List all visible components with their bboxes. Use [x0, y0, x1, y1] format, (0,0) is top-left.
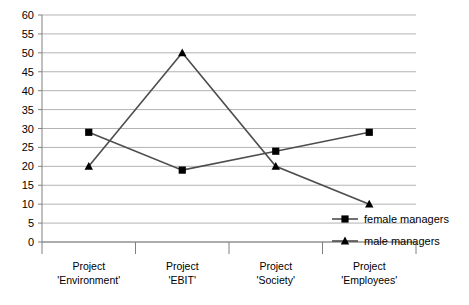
x-axis-category-label: 'Environment' [57, 274, 120, 286]
y-axis-tick-label: 10 [22, 198, 34, 210]
y-axis-tick-label: 60 [22, 9, 34, 21]
data-point-square-marker [366, 129, 373, 136]
legend-item-label: male managers [364, 235, 440, 247]
y-axis-tick-label: 55 [22, 28, 34, 40]
y-axis-tick-label: 45 [22, 66, 34, 78]
x-axis-category-label: Project [166, 260, 199, 272]
x-axis-category-label: 'Employees' [341, 274, 397, 286]
line-chart: 051015202530354045505560 Project'Environ… [0, 0, 469, 305]
x-axis-category-label: 'Society' [257, 274, 295, 286]
chart-canvas: 051015202530354045505560 Project'Environ… [0, 0, 469, 305]
data-point-square-marker [179, 167, 186, 174]
x-axis-category-label: 'EBIT' [169, 274, 196, 286]
y-axis-tick-label: 25 [22, 141, 34, 153]
legend-square-marker [341, 215, 348, 222]
y-axis-tick-label: 50 [22, 47, 34, 59]
y-axis-tick-label: 40 [22, 85, 34, 97]
y-axis-tick-label: 5 [28, 217, 34, 229]
y-axis-tick-label: 15 [22, 179, 34, 191]
y-axis-tick-label: 30 [22, 123, 34, 135]
data-point-square-marker [272, 148, 279, 155]
data-point-square-marker [85, 129, 92, 136]
y-axis-tick-label: 0 [28, 236, 34, 248]
chart-background [0, 0, 469, 305]
x-axis-category-label: Project [259, 260, 292, 272]
x-axis-category-label: Project [72, 260, 105, 272]
y-axis-tick-label: 20 [22, 160, 34, 172]
x-axis-category-label: Project [353, 260, 386, 272]
y-axis-tick-label: 35 [22, 104, 34, 116]
legend-item-label: female managers [364, 213, 449, 225]
